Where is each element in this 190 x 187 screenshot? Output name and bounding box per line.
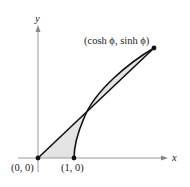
vertex-point (72, 156, 77, 161)
vertex-label: (1, 0) (61, 163, 84, 174)
origin-label: (0, 0) (11, 163, 34, 174)
y-axis-arrow-icon (36, 25, 41, 32)
origin-point (36, 156, 41, 161)
x-axis-label: x (172, 153, 177, 164)
ray-line (38, 48, 154, 158)
endpoint-label: (cosh ϕ, sinh ϕ) (84, 36, 149, 47)
endpoint-point (152, 46, 157, 51)
hyperbola-curve (74, 48, 154, 158)
hyperbolic-sector-diagram (0, 0, 190, 187)
x-axis-arrow-icon (161, 156, 168, 161)
y-axis-label: y (35, 14, 40, 25)
